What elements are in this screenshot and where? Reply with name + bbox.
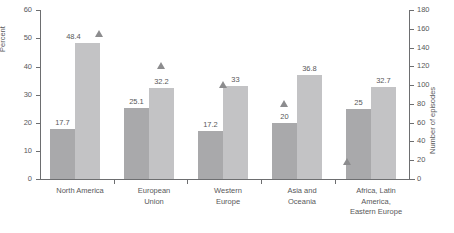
y-tick-right-20 (410, 160, 414, 161)
bar-light-asia-oceania[interactable] (297, 75, 322, 179)
category-label-line: Africa, Latin (326, 186, 426, 197)
bar-value-light-north-america: 48.4 (56, 33, 91, 41)
y-tick-label-left-10: 10 (10, 147, 32, 155)
y-axis-left-title: Percent (0, 26, 7, 52)
y-tick-right-160 (410, 29, 414, 30)
episode-marker-european-union (157, 62, 165, 69)
bar-value-dark-africa-latin-america-eastern-europe: 25 (341, 99, 376, 107)
episode-marker-western-europe (219, 81, 227, 88)
y-tick-right-80 (410, 104, 414, 105)
y-tick-label-right-120: 120 (417, 62, 441, 70)
y-axis-left-line (40, 10, 41, 180)
y-tick-left-50 (36, 38, 40, 39)
y-tick-label-right-160: 160 (417, 25, 441, 33)
bar-value-light-africa-latin-america-eastern-europe: 32.7 (366, 77, 401, 85)
y-tick-label-right-60: 60 (417, 119, 441, 127)
bar-value-dark-european-union: 25.1 (119, 98, 154, 106)
y-tick-left-40 (36, 67, 40, 68)
y-tick-left-60 (36, 10, 40, 11)
chart-container: Percent 60 50 40 30 20 10 0 Number of ep… (0, 0, 454, 233)
y-axis-right-line (409, 10, 410, 180)
bar-value-dark-western-europe: 17.2 (193, 121, 228, 129)
episode-marker-north-america (95, 30, 103, 37)
bar-light-north-america[interactable] (75, 43, 100, 179)
y-tick-right-140 (410, 48, 414, 49)
category-label-line: Eastern Europe (326, 207, 426, 218)
episode-marker-africa-latin-america-eastern-europe (343, 158, 351, 165)
bar-value-light-european-union: 32.2 (144, 78, 179, 86)
bar-dark-africa-latin-america-eastern-europe[interactable] (346, 109, 371, 179)
y-tick-left-10 (36, 151, 40, 152)
y-tick-label-left-40: 40 (10, 63, 32, 71)
category-label-africa-latin-america-eastern-europe: Africa, Latin America, Eastern Europe (326, 186, 426, 218)
x-tick-sep-1 (114, 180, 115, 184)
bar-light-western-europe[interactable] (223, 86, 248, 179)
category-label-line: America, (326, 197, 426, 208)
bar-dark-north-america[interactable] (50, 129, 75, 179)
episode-marker-asia-oceania (280, 100, 288, 107)
y-tick-left-20 (36, 123, 40, 124)
bar-value-light-asia-oceania: 36.8 (292, 65, 327, 73)
y-tick-label-left-0: 0 (10, 175, 32, 183)
y-tick-label-right-20: 20 (417, 156, 441, 164)
bar-value-dark-asia-oceania: 20 (267, 113, 302, 121)
y-tick-label-left-20: 20 (10, 119, 32, 127)
y-tick-label-right-40: 40 (417, 137, 441, 145)
y-tick-left-30 (36, 95, 40, 96)
y-tick-label-right-80: 80 (417, 100, 441, 108)
y-tick-right-120 (410, 66, 414, 67)
y-tick-right-100 (410, 85, 414, 86)
x-tick-sep-2 (187, 180, 188, 184)
y-tick-right-40 (410, 141, 414, 142)
y-tick-label-right-100: 100 (417, 81, 441, 89)
y-tick-label-right-180: 180 (417, 6, 441, 14)
bar-dark-asia-oceania[interactable] (272, 123, 297, 179)
y-tick-label-right-140: 140 (417, 44, 441, 52)
y-tick-label-right-0: 0 (417, 175, 441, 183)
y-tick-right-60 (410, 123, 414, 124)
bar-value-dark-north-america: 17.7 (45, 119, 80, 127)
x-tick-sep-3 (261, 180, 262, 184)
y-tick-label-left-50: 50 (10, 34, 32, 42)
y-tick-label-left-60: 60 (10, 6, 32, 14)
bar-dark-western-europe[interactable] (198, 131, 223, 179)
x-tick-sep-4 (335, 180, 336, 184)
y-tick-label-left-30: 30 (10, 91, 32, 99)
y-tick-right-180 (410, 10, 414, 11)
bar-dark-european-union[interactable] (124, 108, 149, 179)
x-axis-line (40, 179, 415, 180)
